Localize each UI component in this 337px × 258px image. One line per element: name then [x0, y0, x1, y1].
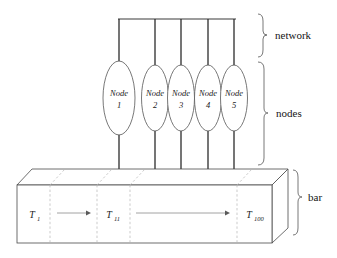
node-number-3: 3 — [178, 100, 183, 110]
bar-segment-sub-3: 100 — [254, 215, 265, 222]
node-label-5: Node — [224, 88, 243, 98]
node-ellipse-3[interactable] — [168, 65, 195, 131]
figure-canvas: Node 1 Node 2 Node 3 Node 4 Node 5 — [0, 0, 337, 258]
nodes-group: Node 1 Node 2 Node 3 Node 4 Node 5 — [103, 61, 248, 135]
nodes-bracket-label: nodes — [276, 107, 302, 119]
node-label-4: Node — [198, 88, 217, 98]
network-bus-group — [118, 19, 236, 66]
node-number-1: 1 — [117, 100, 121, 110]
node-ellipse-5[interactable] — [221, 65, 248, 131]
network-brace — [258, 14, 267, 57]
node-label-1: Node — [109, 88, 128, 98]
diagram-root: Node 1 Node 2 Node 3 Node 4 Node 5 — [0, 0, 337, 258]
bar-segment-sub-2: 11 — [114, 215, 120, 222]
node-label-3: Node — [171, 88, 190, 98]
network-bracket-label: network — [275, 29, 312, 41]
node-ellipse-2[interactable] — [142, 65, 169, 131]
bar-brace — [293, 170, 302, 235]
node-label-2: Node — [145, 88, 164, 98]
nodes-brace — [258, 62, 268, 165]
bar-group: T 1 T 11 T 100 — [17, 169, 288, 243]
node-number-5: 5 — [232, 100, 236, 110]
node-ellipse-4[interactable] — [195, 65, 222, 131]
bar-segment-sub-1: 1 — [37, 215, 40, 222]
bar-bracket-label: bar — [308, 191, 322, 203]
node-ellipse-1[interactable] — [103, 61, 135, 135]
bar-front-face — [17, 185, 272, 243]
